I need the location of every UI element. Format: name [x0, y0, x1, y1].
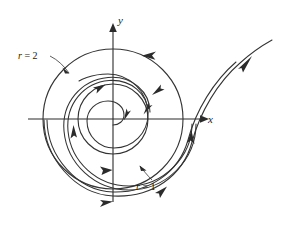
outer-escape-arrowhead-2	[155, 187, 167, 199]
axes-group	[28, 23, 209, 202]
phase-portrait-figure: x y r = 2 r = 1	[0, 0, 281, 236]
outer-cycle-label-equals: =	[22, 50, 33, 61]
inner-cycle-label-equals: =	[140, 181, 151, 192]
r2-leader-line	[50, 56, 69, 73]
inner-cycle-label-value: 1	[151, 181, 156, 192]
outer-escape-companion-path	[47, 62, 236, 192]
middle-spiral-arrowhead-3	[100, 167, 113, 176]
r2-leader-arrowhead	[63, 68, 70, 74]
middle-spiral-arrowhead-1	[152, 85, 165, 96]
inner-cycle-label: r = 1	[136, 181, 156, 192]
outer-cycle-label: r = 2	[18, 50, 38, 61]
outer-cycle-label-value: 2	[33, 50, 38, 61]
middle-spiral-arrowhead-2	[71, 125, 78, 139]
trajectory-middle-spiral-inward	[64, 77, 196, 190]
y-axis-label: y	[117, 14, 123, 26]
y-axis-arrowhead	[109, 23, 117, 32]
trajectory-inner-spiral-outward	[79, 74, 153, 148]
phase-portrait-canvas: x y r = 2 r = 1	[0, 0, 281, 236]
outer-escape-arrowhead-1	[100, 200, 113, 207]
x-axis-label: x	[207, 113, 213, 125]
r1-leader-arrowhead	[140, 166, 147, 172]
middle-spiral-path	[64, 77, 196, 190]
